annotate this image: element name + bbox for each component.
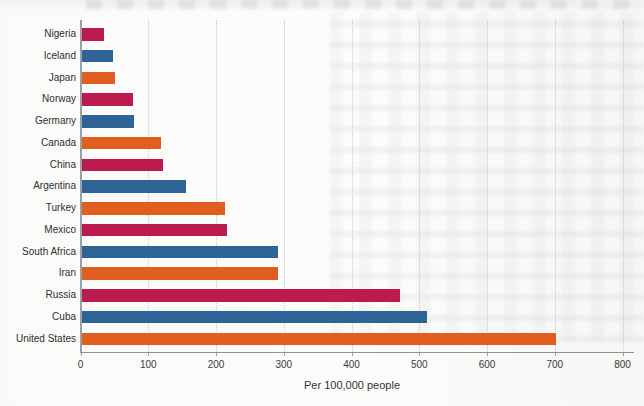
gridline [487,20,488,352]
x-axis-title: Per 100,000 people [81,379,623,391]
bar-iran [81,267,278,280]
category-label-turkey: Turkey [0,202,76,215]
category-label-japan: Japan [0,72,76,85]
bar-cuba [81,311,427,324]
gridline [284,20,285,352]
category-label-canada: Canada [0,137,76,150]
x-tick-mark [555,353,556,356]
bar-china [81,159,162,172]
category-label-mexico: Mexico [0,224,76,237]
category-label-norway: Norway [0,93,76,106]
category-label-nigeria: Nigeria [0,28,76,41]
gridline [216,20,217,352]
category-label-cuba: Cuba [0,311,76,324]
gridline [352,20,353,352]
bar-norway [81,93,133,106]
x-tick-mark [81,353,82,356]
x-tick-mark [487,353,488,356]
x-tick-label: 700 [546,359,563,370]
bar-japan [81,72,115,85]
x-tick-label: 500 [411,359,428,370]
bar-canada [81,137,161,150]
x-tick-mark [352,353,353,356]
gridline [419,20,420,352]
bar-russia [81,289,399,302]
category-label-south-africa: South Africa [0,246,76,259]
bar-germany [81,115,134,128]
bar-nigeria [81,28,103,41]
gridline [623,20,624,352]
bar-united-states [81,333,555,346]
category-label-russia: Russia [0,289,76,302]
x-tick-label: 800 [614,359,631,370]
x-tick-label: 600 [479,359,496,370]
gridline [555,20,556,352]
category-label-germany: Germany [0,115,76,128]
x-tick-mark [148,353,149,356]
x-tick-label: 100 [140,359,157,370]
x-axis-line [80,352,634,354]
category-label-china: China [0,159,76,172]
bar-argentina [81,180,186,193]
x-tick-mark [623,353,624,356]
category-label-iran: Iran [0,267,76,280]
category-label-united-states: United States [0,333,76,346]
bar-turkey [81,202,225,215]
x-tick-mark [284,353,285,356]
bar-south-africa [81,246,277,259]
category-label-argentina: Argentina [0,180,76,193]
scanned-page: NigeriaIcelandJapanNorwayGermanyCanadaCh… [0,0,644,406]
x-tick-label: 400 [343,359,360,370]
y-axis-line [80,20,82,352]
x-tick-mark [419,353,420,356]
bar-mexico [81,224,227,237]
bar-iceland [81,50,113,63]
x-tick-label: 300 [275,359,292,370]
x-tick-label: 200 [208,359,225,370]
category-label-iceland: Iceland [0,50,76,63]
x-tick-mark [216,353,217,356]
x-tick-label: 0 [78,359,84,370]
bar-chart: NigeriaIcelandJapanNorwayGermanyCanadaCh… [0,0,644,406]
